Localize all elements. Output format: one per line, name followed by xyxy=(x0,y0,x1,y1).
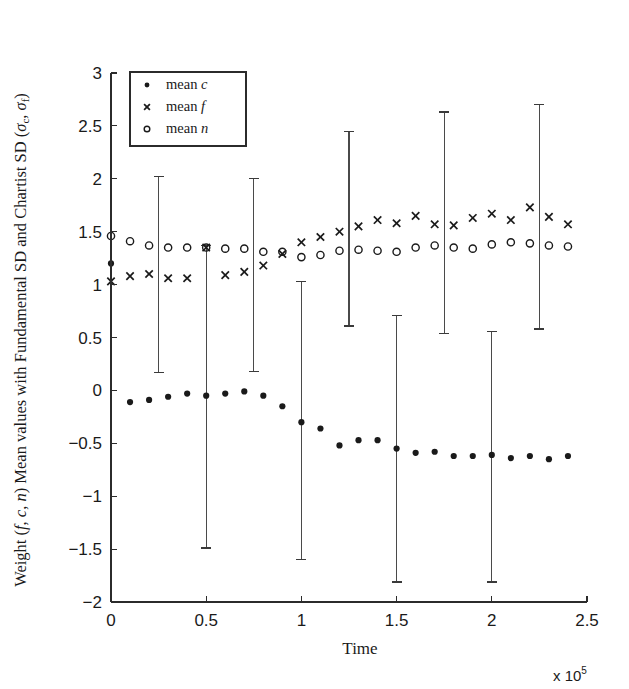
y-axis-tick-label: 0 xyxy=(93,381,102,400)
marker-circle xyxy=(317,251,324,258)
marker-circle xyxy=(488,241,495,248)
marker-x xyxy=(564,221,571,228)
marker-x xyxy=(393,220,400,227)
marker-x xyxy=(336,228,343,235)
legend-label: mean c xyxy=(166,76,208,92)
marker-circle xyxy=(260,248,267,255)
marker-x xyxy=(260,262,267,269)
series-mean-n xyxy=(107,232,571,260)
marker-circle xyxy=(450,244,457,251)
marker-circle xyxy=(184,244,191,251)
figure-container: −2−1.5−1−0.500.511.522.5300.511.522.5 me… xyxy=(0,0,629,689)
error-bar xyxy=(439,112,449,333)
marker-x xyxy=(241,268,248,275)
error-bar xyxy=(534,105,544,329)
marker-dot xyxy=(413,450,419,456)
marker-circle xyxy=(298,253,305,260)
error-bar xyxy=(344,131,354,326)
marker-circle xyxy=(374,247,381,254)
marker-dot xyxy=(451,453,457,459)
x-axis-tick-label: 1.5 xyxy=(385,611,409,630)
marker-circle xyxy=(526,240,533,247)
marker-x xyxy=(469,214,476,221)
legend-label: mean n xyxy=(166,120,208,136)
marker-circle xyxy=(431,242,438,249)
marker-dot xyxy=(432,449,438,455)
marker-x xyxy=(507,216,514,223)
marker-dot xyxy=(165,394,171,400)
x-axis-title: Time xyxy=(342,639,377,658)
marker-x xyxy=(145,270,152,277)
scatter-plot: −2−1.5−1−0.500.511.522.5300.511.522.5 me… xyxy=(0,0,629,689)
marker-circle xyxy=(336,247,343,254)
marker-x xyxy=(183,275,190,282)
marker-x xyxy=(298,239,305,246)
marker-circle xyxy=(355,246,362,253)
marker-circle xyxy=(145,242,152,249)
y-axis-title: Weight (f, c, n) Mean values with Fundam… xyxy=(11,93,31,587)
x-axis-tick-label: 2.5 xyxy=(575,611,599,630)
marker-circle xyxy=(412,244,419,251)
marker-x xyxy=(431,221,438,228)
y-axis-tick-label: 2 xyxy=(93,170,102,189)
marker-circle xyxy=(222,245,229,252)
marker-x xyxy=(545,213,552,220)
x-axis-tick-label: 2 xyxy=(487,611,496,630)
y-axis-tick-label: 2.5 xyxy=(78,117,102,136)
marker-dot xyxy=(145,83,150,88)
x-axis-tick-label: 0 xyxy=(106,611,115,630)
chart-legend: mean cmean fmean n xyxy=(130,72,246,146)
marker-dot xyxy=(241,388,247,394)
y-axis-tick-label: −1.5 xyxy=(68,540,102,559)
marker-x xyxy=(222,271,229,278)
marker-circle xyxy=(545,242,552,249)
data-series-layer xyxy=(107,204,571,463)
marker-x xyxy=(450,222,457,229)
marker-dot xyxy=(489,452,495,458)
marker-dot xyxy=(260,393,266,399)
series-mean-c xyxy=(108,260,571,462)
marker-dot xyxy=(146,397,152,403)
series-mean-f xyxy=(107,204,571,285)
marker-circle xyxy=(165,244,172,251)
marker-dot xyxy=(298,419,304,425)
x-axis-multiplier: x 105 xyxy=(553,665,587,684)
y-axis-tick-label: 1 xyxy=(93,276,102,295)
marker-x xyxy=(526,204,533,211)
marker-dot xyxy=(508,455,514,461)
marker-circle xyxy=(564,243,571,250)
marker-dot xyxy=(317,425,323,431)
y-axis-tick-label: 3 xyxy=(93,64,102,83)
marker-dot xyxy=(222,390,228,396)
tick-labels-layer: −2−1.5−1−0.500.511.522.5300.511.522.5 xyxy=(68,64,598,630)
marker-dot xyxy=(374,437,380,443)
marker-x xyxy=(488,210,495,217)
legend-label: mean f xyxy=(166,98,207,114)
error-bars-layer xyxy=(154,105,545,582)
error-bar xyxy=(249,179,259,372)
marker-dot xyxy=(279,403,285,409)
y-axis-tick-label: −0.5 xyxy=(68,434,102,453)
y-axis-tick-label: −2 xyxy=(83,593,102,612)
marker-dot xyxy=(184,390,190,396)
marker-x xyxy=(355,223,362,230)
x-axis-tick-label: 0.5 xyxy=(194,611,218,630)
marker-dot xyxy=(127,399,133,405)
marker-dot xyxy=(336,442,342,448)
marker-x xyxy=(164,275,171,282)
marker-x xyxy=(126,272,133,279)
marker-x xyxy=(412,212,419,219)
marker-dot xyxy=(394,445,400,451)
marker-dot xyxy=(546,456,552,462)
marker-dot xyxy=(203,393,209,399)
marker-x xyxy=(317,233,324,240)
marker-x xyxy=(374,216,381,223)
marker-circle xyxy=(393,248,400,255)
x-axis-tick-label: 1 xyxy=(297,611,306,630)
y-axis-tick-label: 0.5 xyxy=(78,329,102,348)
marker-circle xyxy=(507,239,514,246)
marker-dot xyxy=(470,453,476,459)
marker-dot xyxy=(527,453,533,459)
y-axis-tick-label: −1 xyxy=(83,487,102,506)
marker-dot xyxy=(355,437,361,443)
